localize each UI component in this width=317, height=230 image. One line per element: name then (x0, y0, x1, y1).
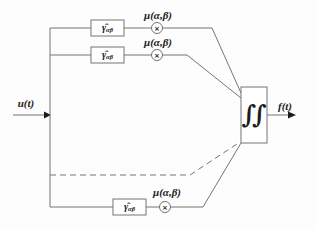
gain-subscript: αβ (106, 54, 113, 61)
gain-subscript: αβ (128, 206, 135, 213)
ellipsis-dashed-diagonal-line (190, 142, 240, 175)
weight-label-2: μ(α,β) (133, 36, 183, 48)
gain-label-3: γ̂αβ (113, 199, 146, 215)
gain-label-1: γ̂αβ (91, 20, 124, 36)
branch-1-diagonal-line (212, 28, 241, 93)
output-arrowhead-icon (288, 112, 296, 119)
output-label: f(t) (270, 100, 300, 112)
weight-label-1: μ(α,β) (133, 9, 183, 21)
multiplier-cross-icon: × (154, 25, 160, 33)
branch-2-diagonal-line (187, 55, 241, 98)
weight-label-3: μ(α,β) (142, 186, 192, 198)
branch-3-diagonal-line (203, 143, 241, 207)
gain-label-2: γ̂αβ (91, 47, 124, 63)
input-label: u(t) (8, 97, 44, 109)
multiplier-cross-icon: × (154, 52, 160, 60)
double-integral-symbol: ∫∫ (241, 87, 267, 143)
gain-subscript: αβ (106, 27, 113, 34)
multiplier-cross-icon: × (162, 204, 168, 212)
block-diagram: × × × u(t) f(t) μ(α,β) μ(α,β) μ(α,β) γ̂α… (0, 0, 317, 230)
